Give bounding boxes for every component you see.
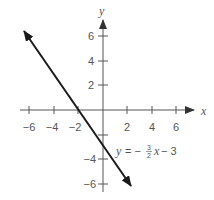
fraction-denominator: 2 — [147, 152, 151, 159]
equation-y: y — [115, 144, 122, 158]
x-axis: −6 −4 −2 2 4 6 x — [20, 104, 207, 133]
x-tick-label: 6 — [173, 121, 179, 133]
y-tick-label: 6 — [88, 30, 94, 42]
y-tick-label: 2 — [88, 79, 94, 91]
equation-annotation: y = − 3 2 x − 3 — [115, 144, 177, 159]
equation-equals: = − — [125, 145, 141, 157]
y-tick-label: 4 — [88, 55, 94, 67]
x-tick-label: −6 — [23, 121, 36, 133]
y-tick-label: −6 — [83, 178, 96, 190]
x-tick-label: −4 — [46, 121, 59, 133]
x-tick-label: 4 — [149, 121, 155, 133]
graph-canvas: −6 −4 −2 2 4 6 x 6 4 2 −4 −6 y y = − 3 2… — [0, 0, 214, 200]
fraction-numerator: 3 — [147, 144, 151, 151]
equation-x: x — [153, 144, 160, 158]
y-tick-label: −4 — [83, 153, 96, 165]
y-axis: 6 4 2 −4 −6 y — [83, 4, 108, 192]
x-tick-label: −2 — [69, 121, 82, 133]
series-line — [24, 31, 131, 186]
x-axis-label: x — [200, 104, 207, 118]
equation-tail: − 3 — [161, 145, 177, 157]
y-axis-label: y — [98, 4, 105, 18]
x-tick-label: 2 — [124, 121, 130, 133]
